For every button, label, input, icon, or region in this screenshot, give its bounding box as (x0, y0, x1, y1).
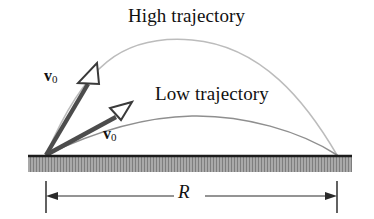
velocity-vector-high-label: v0 (44, 68, 58, 85)
low-trajectory-label: Low trajectory (155, 84, 269, 103)
ground-bar (28, 157, 352, 172)
range-label: R (178, 182, 190, 201)
velocity-symbol-low: v (103, 125, 111, 142)
range-arrowhead-right (325, 192, 337, 200)
velocity-subscript-low: 0 (111, 131, 117, 143)
projectile-trajectory-figure: High trajectory Low trajectory v0 v0 R (0, 0, 374, 219)
range-arrowhead-left (46, 192, 58, 200)
velocity-vector-low-label: v0 (103, 126, 117, 143)
velocity-symbol-high: v (44, 67, 52, 84)
low-trajectory-curve (46, 116, 337, 155)
velocity-vector-high-arrowhead (78, 63, 99, 84)
velocity-subscript-high: 0 (52, 73, 58, 85)
high-trajectory-label: High trajectory (128, 6, 245, 25)
